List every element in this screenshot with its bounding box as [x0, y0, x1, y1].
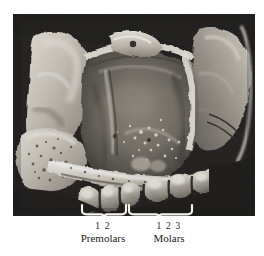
caption-group-molars: 1 2 3 Molars: [138, 221, 200, 245]
skull-photo-artwork: [13, 14, 255, 216]
premolar-numbers: 1 2: [66, 221, 140, 232]
premolar-label: Premolars: [66, 232, 140, 245]
molar-label: Molars: [138, 232, 200, 245]
molar-numbers: 1 2 3: [138, 221, 200, 232]
caption-group-premolars: 1 2 Premolars: [66, 221, 140, 245]
figure-container: 1 2 Premolars 1 2 3 Molars: [0, 0, 264, 256]
caption-block: 1 2 Premolars 1 2 3 Molars: [0, 218, 264, 256]
skull-photograph: [13, 14, 255, 216]
